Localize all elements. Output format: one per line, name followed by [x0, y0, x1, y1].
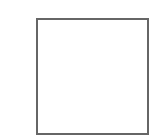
square-outline [36, 18, 149, 135]
